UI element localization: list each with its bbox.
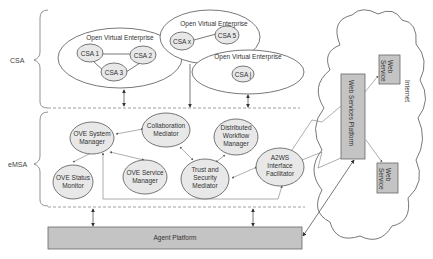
csa-3-node[interactable]: CSA 3 [101,63,127,81]
svg-text:Web: Web [387,60,394,74]
svg-text:CSA 5: CSA 5 [218,32,237,39]
web-services-platform-box[interactable]: Web Services Platform [341,74,365,159]
svg-text:Facilitator: Facilitator [266,170,295,177]
web-service-bottom-box[interactable]: Web Service [377,163,398,193]
web-service-top-box[interactable]: Web Service [379,55,400,84]
svg-text:CSA x: CSA x [173,38,192,45]
svg-text:Service: Service [378,168,385,190]
trust-security-mediator-node[interactable]: Trust and Security Mediator [181,159,229,199]
svg-text:OVE Service: OVE Service [126,169,164,176]
architecture-diagram: CSA eMSA Open Virtual Enterprise CSA 1 C… [0,0,433,259]
svg-text:Mediator: Mediator [153,130,179,137]
a2ws-ws-link-upper [292,106,341,150]
svg-text:Manager: Manager [132,177,158,185]
svg-text:Distributed: Distributed [220,124,251,131]
svg-text:CSA j: CSA j [235,71,251,79]
emsa-layer-brace [34,112,48,206]
svg-text:CSA 1: CSA 1 [81,50,100,57]
emsa-layer-label: eMSA [8,161,27,168]
svg-text:Workflow: Workflow [223,132,250,139]
svg-text:Mediator: Mediator [192,182,218,189]
csa-layer-label: CSA [10,57,25,64]
ove-group-3: Open Virtual Enterprise CSA j [192,50,304,94]
ove-2-title: Open Virtual Enterprise [180,20,248,28]
csa-j-node[interactable]: CSA j [232,66,254,82]
csa-1-node[interactable]: CSA 1 [77,44,103,62]
svg-text:Service: Service [380,60,387,82]
svg-text:Collaboration: Collaboration [147,122,186,129]
agent-ws-platform-arrow [303,160,354,236]
svg-text:CSA 3: CSA 3 [105,69,124,76]
svg-text:Security: Security [193,174,217,182]
svg-text:Manager: Manager [223,140,249,148]
agent-platform-box[interactable]: Agent Platform [48,227,302,249]
a2ws-interface-facilitator-node[interactable]: A2WS Interface Facilitator [256,148,304,186]
svg-text:Manager: Manager [79,138,105,146]
ove-status-monitor-node[interactable]: OVE Status Monitor [53,165,93,199]
ove-service-manager-node[interactable]: OVE Service Manager [123,160,167,194]
ove-system-manager-node[interactable]: OVE System Manager [70,122,114,154]
svg-text:CSA 2: CSA 2 [134,52,153,59]
svg-text:OVE Status: OVE Status [56,174,91,181]
svg-text:Trust and: Trust and [191,166,219,173]
ws-platform-to-web-service-bottom [366,140,382,162]
svg-text:Web: Web [385,168,392,182]
csa-2-node[interactable]: CSA 2 [130,46,156,64]
distributed-workflow-manager-node[interactable]: Distributed Workflow Manager [214,119,258,155]
svg-text:Interface: Interface [267,162,293,169]
ove-1-title: Open Virtual Enterprise [86,34,154,42]
csa-5-node[interactable]: CSA 5 [215,26,239,44]
ws-platform-to-web-service-top [365,76,378,92]
internet-cloud [314,10,426,240]
ove-3-title: Open Virtual Enterprise [214,53,282,61]
collaboration-mediator-node[interactable]: Collaboration Mediator [142,113,190,147]
svg-text:Agent Platform: Agent Platform [154,234,197,242]
svg-text:OVE System: OVE System [73,130,110,138]
csa-x-node[interactable]: CSA x [170,32,194,50]
svg-text:Monitor: Monitor [62,182,85,189]
csa-layer-brace [34,10,48,108]
a2ws-ws-link-lower [302,152,341,168]
svg-text:Web Services Platform: Web Services Platform [348,80,355,146]
svg-text:A2WS: A2WS [271,154,290,161]
internet-label: Internet [404,80,411,102]
